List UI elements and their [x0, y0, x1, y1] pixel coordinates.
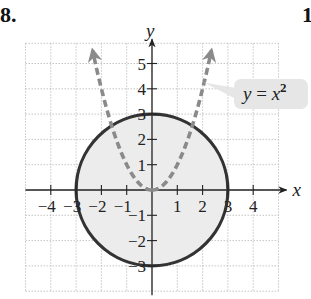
equation-equals: =: [251, 83, 271, 104]
y-axis-label: y: [144, 20, 155, 41]
y-tick-label: 5: [138, 55, 147, 74]
x-tick-label: −3: [63, 197, 81, 216]
y-tick-label: 3: [138, 105, 147, 124]
equation-callout: y = x2: [204, 79, 308, 109]
equation-y: y: [241, 83, 252, 104]
x-tick-label: −2: [88, 197, 106, 216]
x-axis-label: x: [292, 179, 302, 200]
y-tick-label: −3: [128, 257, 146, 276]
y-tick-label: 4: [138, 80, 147, 99]
x-tick-label: 1: [173, 197, 182, 216]
equation-label: y = x2: [241, 80, 287, 104]
coordinate-graph: −4−3−2−1123454321−1−2−3 y = x2 x y: [0, 0, 311, 299]
y-tick-label: 2: [138, 130, 147, 149]
y-tick-label: 1: [138, 156, 147, 175]
x-tick-label: −4: [38, 197, 57, 216]
y-tick-label: −2: [128, 232, 146, 251]
x-tick-label: 2: [198, 197, 207, 216]
callout-pointer: [204, 82, 236, 99]
y-tick-label: −1: [128, 206, 146, 225]
x-tick-label: 4: [249, 197, 258, 216]
equation-exponent: 2: [280, 80, 287, 95]
x-tick-label: 3: [224, 197, 233, 216]
